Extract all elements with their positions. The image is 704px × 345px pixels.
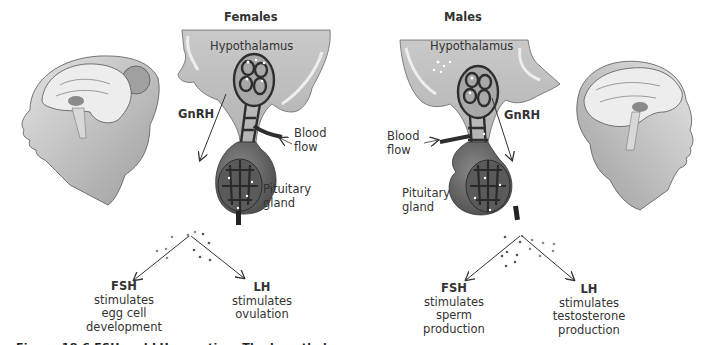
male-panel-title: Males	[444, 11, 482, 25]
male-hormone-release	[466, 235, 574, 280]
hormone-diagram: Females Hypothalamus GnRH Blood flow Pit…	[0, 0, 704, 345]
female-gnrh-arrow	[200, 94, 226, 160]
male-pituitary-gland	[449, 142, 520, 220]
male-fsh-arrow	[466, 236, 520, 280]
male-pituitary-label: Pituitary gland	[402, 187, 450, 214]
female-pituitary-label: Pituitary gland	[263, 183, 311, 210]
male-fsh-label: FSH stimulates sperm production	[414, 282, 494, 336]
female-panel-title: Females	[224, 11, 278, 25]
female-gnrh-label: GnRH	[178, 108, 214, 122]
male-blood-flow-label: Blood flow	[387, 130, 419, 157]
female-hypothalamus-label: Hypothalamus	[210, 40, 293, 54]
male-lh-arrow	[522, 236, 574, 280]
female-lh-name: LH	[220, 281, 304, 295]
male-fsh-name: FSH	[414, 282, 494, 296]
female-fsh-label: FSH stimulates egg cell development	[84, 280, 164, 334]
male-hypothalamus-label: Hypothalamus	[430, 40, 513, 54]
female-head-illustration	[22, 56, 159, 205]
female-fsh-arrow	[134, 236, 189, 280]
male-lh-label: LH stimulates testosterone production	[544, 283, 634, 337]
female-fsh-name: FSH	[84, 280, 164, 294]
male-blood-flow-arrow	[424, 140, 438, 143]
male-head-illustration	[577, 61, 693, 210]
female-blood-flow-label: Blood flow	[294, 127, 326, 154]
male-gnrh-label: GnRH	[504, 109, 540, 123]
female-lh-label: LH stimulates ovulation	[220, 281, 304, 322]
male-hypothalamus-region	[400, 40, 560, 150]
male-lh-name: LH	[544, 283, 634, 297]
female-hormone-release	[134, 231, 244, 280]
figure-caption-cropped: Figure 18.6 FSH and LH secretion. The hy…	[0, 336, 704, 345]
female-blood-flow-arrow	[280, 138, 292, 144]
